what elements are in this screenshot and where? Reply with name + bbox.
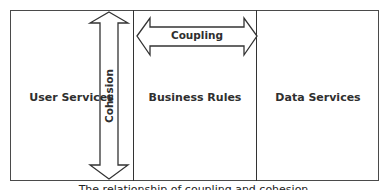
coupling-label: Coupling (150, 29, 244, 41)
cohesion-label: Cohesion (103, 66, 115, 126)
diagram-caption: The relationship of coupling and cohesio… (0, 183, 387, 190)
column-business-rules: Business Rules (134, 91, 256, 104)
column-data-services: Data Services (257, 91, 379, 104)
